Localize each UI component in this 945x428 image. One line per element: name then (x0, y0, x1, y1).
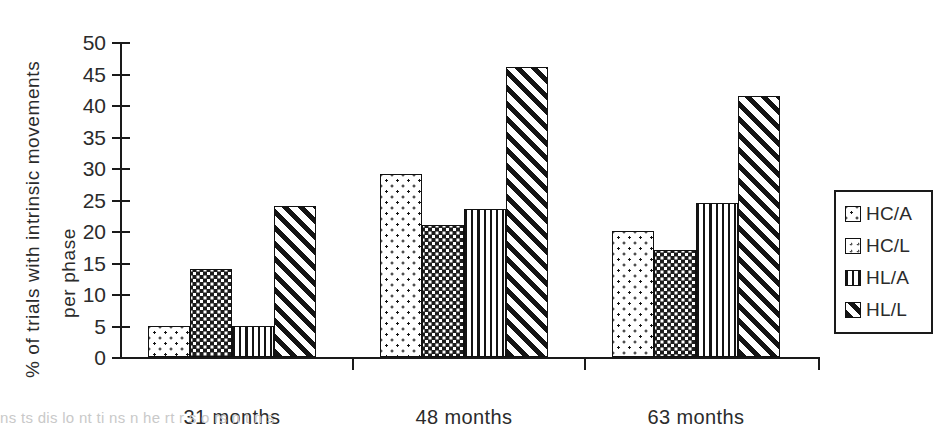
x-axis-line (120, 357, 820, 359)
bar-48months-hla (464, 209, 506, 357)
y-tick-30: 30 (120, 168, 121, 169)
y-tick-25: 25 (120, 200, 121, 201)
bar-31months-hla (232, 326, 274, 358)
y-tick-50: 50 (120, 42, 121, 43)
y-tick-40: 40 (120, 105, 121, 106)
y-axis-title-line2: per phase (58, 228, 80, 318)
y-tick-label-15: 15 (83, 252, 106, 273)
y-tick-label-20: 20 (83, 221, 106, 242)
legend-item-hcl: HC/L (845, 235, 923, 257)
legend-item-hll: HL/L (845, 299, 923, 321)
x-axis-separator-tick-1 (352, 357, 354, 370)
bar-63months-hcl (654, 250, 696, 357)
y-tick-label-25: 25 (83, 189, 106, 210)
cropped-caption-remnant: ns ts dis lo nt ti ns n he rt r s o rs n… (0, 409, 945, 423)
y-tick-label-0: 0 (94, 347, 106, 368)
bar-48months-hll (506, 67, 548, 357)
bar-31months-hca (148, 326, 190, 358)
legend: HC/A HC/L HL/A HL/L (834, 190, 933, 334)
y-tick-label-50: 50 (83, 32, 106, 53)
y-axis-title-line1: % of trials with intrinsic movements (22, 61, 44, 378)
bar-48months-hcl (422, 225, 464, 357)
y-tick-label-5: 5 (94, 315, 106, 336)
y-tick-5: 5 (120, 326, 121, 327)
y-tick-15: 15 (120, 263, 121, 264)
bar-63months-hla (696, 203, 738, 357)
legend-swatch-hca-icon (845, 206, 861, 222)
bar-63months-hca (612, 231, 654, 357)
y-tick-45: 45 (120, 74, 121, 75)
y-tick-35: 35 (120, 137, 121, 138)
bar-31months-hcl (190, 269, 232, 357)
y-tick-label-30: 30 (83, 158, 106, 179)
y-tick-0: 0 (120, 357, 121, 358)
x-axis-separator-tick-2 (584, 357, 586, 370)
plot-area: 0 5 10 15 20 25 30 35 40 45 50 31 months… (120, 42, 820, 357)
legend-swatch-hll-icon (845, 302, 861, 318)
y-tick-label-45: 45 (83, 63, 106, 84)
legend-swatch-hla-icon (845, 270, 861, 286)
legend-label-hla: HL/A (866, 267, 909, 289)
x-axis-end-tick (818, 357, 820, 370)
y-tick-label-35: 35 (83, 126, 106, 147)
bar-63months-hll (738, 96, 780, 357)
legend-label-hcl: HC/L (866, 235, 910, 257)
legend-swatch-hcl-icon (845, 238, 861, 254)
legend-label-hca: HC/A (866, 203, 912, 225)
legend-item-hca: HC/A (845, 203, 923, 225)
y-tick-label-40: 40 (83, 95, 106, 116)
y-tick-20: 20 (120, 231, 121, 232)
y-tick-10: 10 (120, 294, 121, 295)
y-tick-label-10: 10 (83, 284, 106, 305)
legend-item-hla: HL/A (845, 267, 923, 289)
bar-31months-hll (274, 206, 316, 357)
bar-48months-hca (380, 174, 422, 357)
legend-label-hll: HL/L (866, 299, 907, 321)
